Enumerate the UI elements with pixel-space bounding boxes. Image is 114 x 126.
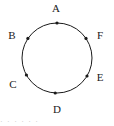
point-label-b: B bbox=[8, 29, 15, 41]
circle-diagram: A B C D E F bbox=[0, 0, 114, 126]
point-label-f: F bbox=[97, 29, 103, 41]
point-label-e: E bbox=[97, 71, 104, 83]
point-marker-b bbox=[26, 37, 29, 40]
figure-canvas: A B C D E F · · · · · · bbox=[0, 0, 114, 126]
main-circle bbox=[22, 23, 92, 93]
point-markers bbox=[25, 21, 89, 94]
point-marker-d bbox=[54, 91, 57, 94]
point-labels: A B C D E F bbox=[8, 2, 103, 115]
point-label-d: D bbox=[53, 103, 61, 115]
point-marker-a bbox=[55, 21, 58, 24]
point-marker-c bbox=[25, 73, 28, 76]
point-marker-e bbox=[85, 74, 88, 77]
point-label-c: C bbox=[9, 78, 16, 90]
clipped-footer-text: · · · · · · bbox=[0, 117, 114, 126]
point-label-a: A bbox=[52, 2, 60, 14]
point-marker-f bbox=[84, 37, 87, 40]
